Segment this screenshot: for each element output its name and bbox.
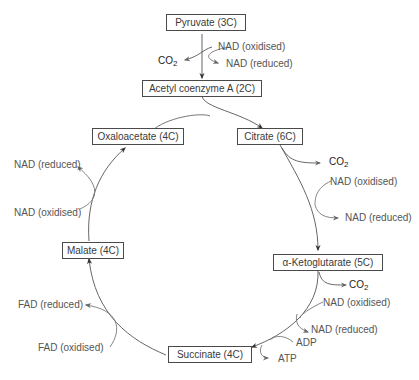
- arrows-layer: [0, 0, 419, 380]
- label-citrate-nad-reduced: NAD (reduced): [345, 212, 412, 224]
- label-citrate-co2: CO2: [329, 156, 348, 171]
- node-malate: Malate (4C): [62, 242, 124, 259]
- node-citrate: Citrate (6C): [237, 128, 303, 145]
- node-pyruvate: Pyruvate (3C): [166, 14, 246, 31]
- node-succinate: Succinate (4C): [168, 346, 252, 363]
- label-fad-reduced: FAD (reduced): [18, 299, 83, 311]
- node-oxaloacetate: Oxaloacetate (4C): [92, 128, 184, 145]
- label-ketoglutarate-nad-oxidised: NAD (oxidised): [323, 297, 390, 309]
- label-adp: ADP: [296, 337, 317, 349]
- node-acetyl-coenzyme-a: Acetyl coenzyme A (2C): [142, 80, 262, 97]
- label-ketoglutarate-co2: CO2: [349, 279, 368, 294]
- label-ketoglutarate-nad-reduced: NAD (reduced): [311, 324, 378, 336]
- label-malate-nad-reduced: NAD (reduced): [14, 159, 81, 171]
- label-citrate-nad-oxidised: NAD (oxidised): [330, 176, 397, 188]
- krebs-cycle-diagram: Pyruvate (3C) Acetyl coenzyme A (2C) Cit…: [0, 0, 419, 380]
- label-pyruvate-nad-reduced: NAD (reduced): [226, 58, 293, 70]
- label-fad-oxidised: FAD (oxidised): [38, 342, 104, 354]
- label-malate-nad-oxidised: NAD (oxidised): [14, 207, 81, 219]
- label-atp: ATP: [278, 353, 297, 365]
- label-pyruvate-nad-oxidised: NAD (oxidised): [218, 41, 285, 53]
- label-pyruvate-co2: CO2: [158, 55, 177, 70]
- node-alpha-ketoglutarate: α-Ketoglutarate (5C): [273, 254, 383, 271]
